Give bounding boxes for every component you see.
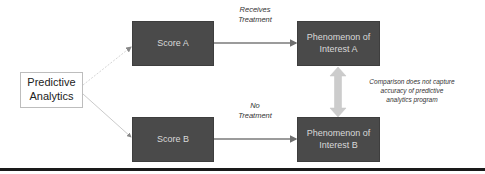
score-a-box: Score A — [132, 21, 214, 66]
comparison-note: Comparison does not capture accuracy of … — [352, 78, 472, 104]
predictive-label-line1: Predictive — [27, 76, 75, 90]
arrow-predictive-to-score-b — [83, 94, 131, 137]
arrow-predictive-to-score-a — [83, 47, 131, 85]
score-b-box: Score B — [132, 117, 214, 162]
receives-treatment-line1: Receives — [220, 5, 290, 15]
no-treatment-line2: Treatment — [220, 111, 290, 121]
phenomenon-b-line2: Interest B — [307, 140, 371, 151]
phenomenon-a-line1: Phenomenon of — [307, 32, 371, 43]
comparison-note-line1: Comparison does not capture — [352, 78, 472, 87]
predictive-analytics-box: Predictive Analytics — [20, 72, 83, 108]
score-b-label: Score B — [157, 134, 189, 145]
no-treatment-line1: No — [220, 101, 290, 111]
receives-treatment-label: Receives Treatment — [220, 5, 290, 25]
diagram-canvas: Predictive Analytics Score A Score B Phe… — [0, 0, 485, 174]
no-treatment-label: No Treatment — [220, 101, 290, 121]
phenomenon-b-line1: Phenomenon of — [307, 128, 371, 139]
predictive-label-line2: Analytics — [27, 90, 75, 104]
comparison-note-line3: analytics program — [352, 96, 472, 105]
comparison-double-arrow — [330, 67, 346, 117]
score-a-label: Score A — [157, 38, 189, 49]
phenomenon-b-box: Phenomenon of Interest B — [297, 117, 380, 162]
comparison-note-line2: accuracy of predictive — [352, 87, 472, 96]
phenomenon-a-box: Phenomenon of Interest A — [297, 21, 380, 66]
bottom-divider-rule — [0, 168, 485, 171]
receives-treatment-line2: Treatment — [220, 15, 290, 25]
phenomenon-a-line2: Interest A — [307, 44, 371, 55]
